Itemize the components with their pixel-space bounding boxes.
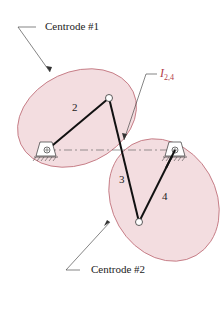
leader-centrode-1 bbox=[18, 27, 50, 72]
link-3-label: 3 bbox=[119, 173, 125, 185]
link-2-label: 2 bbox=[72, 101, 78, 113]
joint-top bbox=[106, 95, 113, 102]
centrode-1-label: Centrode #1 bbox=[45, 20, 99, 32]
link-4-label: 4 bbox=[162, 190, 168, 202]
centrode-2-label: Centrode #2 bbox=[91, 263, 145, 275]
instant-center-label: I2,4 bbox=[160, 66, 174, 82]
joint-bottom bbox=[136, 219, 143, 226]
